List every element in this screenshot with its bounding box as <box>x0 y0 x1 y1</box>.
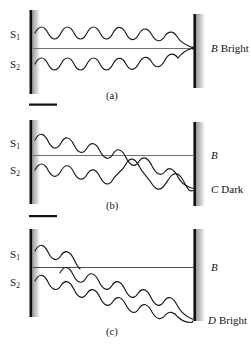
result-label-d: DBright <box>208 314 247 326</box>
result-kind-b: Bright <box>221 42 249 54</box>
result-label-c: CDark <box>211 183 243 195</box>
result-point-d: D <box>208 314 216 326</box>
source-label-s1-sub: 1 <box>16 33 20 42</box>
left-barrier-shadow <box>32 120 40 204</box>
right-screen-shadow <box>196 14 205 88</box>
result-kind-d: Bright <box>219 314 247 326</box>
right-screen <box>193 122 196 206</box>
panel-b: S1 S2 B CDark (b) <box>0 114 251 229</box>
result-label-b: BBright <box>211 42 249 54</box>
axis-point-b: B <box>211 149 218 161</box>
result-point-b: B <box>211 42 218 54</box>
interference-figure: S1 S2 BBright (a) <box>0 0 251 347</box>
source-label-s2-sub: 2 <box>16 169 20 178</box>
source-label-s2-sub: 2 <box>16 281 20 290</box>
left-barrier-shadow <box>32 10 40 94</box>
source-label-s1: S1 <box>10 28 20 42</box>
source-label-s2: S2 <box>10 276 20 290</box>
result-point-c: C <box>211 183 218 195</box>
source-label-s1-sub: 1 <box>16 253 20 262</box>
source-label-s1-sub: 1 <box>16 142 20 151</box>
panel-b-stage <box>0 114 251 229</box>
wave-train-upper <box>60 268 193 320</box>
left-barrier <box>30 10 33 94</box>
wave-s1 <box>35 134 193 188</box>
panel-c-caption: (c) <box>106 326 118 337</box>
source-label-s2-sub: 2 <box>16 63 20 72</box>
wave-s1 <box>35 245 80 269</box>
source-label-s1: S1 <box>10 137 20 151</box>
panel-c-drawing <box>0 229 251 347</box>
wave-s2 <box>35 48 193 70</box>
panel-separator-bar <box>29 104 57 106</box>
panel-c-stage <box>0 229 251 347</box>
right-screen <box>193 229 196 321</box>
source-label-s2: S2 <box>10 164 20 178</box>
axis-label-b: B <box>211 149 221 161</box>
panel-a-drawing <box>0 0 251 114</box>
wave-s2 <box>35 159 193 191</box>
arrival-point-b <box>191 46 194 49</box>
source-label-s1: S1 <box>10 248 20 262</box>
panel-separator-bar <box>29 215 57 217</box>
right-screen-shadow <box>196 122 205 206</box>
panel-a-caption: (a) <box>106 90 118 101</box>
source-label-s2: S2 <box>10 58 20 72</box>
left-barrier <box>30 120 33 204</box>
panel-b-drawing <box>0 114 251 229</box>
result-kind-c: Dark <box>221 183 243 195</box>
left-barrier-shadow <box>32 229 40 317</box>
panel-b-caption: (b) <box>106 200 118 211</box>
wave-s1 <box>35 27 193 48</box>
panel-c: S1 S2 B DBright (c) <box>0 229 251 347</box>
right-screen-shadow <box>196 229 205 321</box>
panel-a: S1 S2 BBright (a) <box>0 0 251 114</box>
right-screen <box>193 14 196 88</box>
left-barrier <box>30 229 33 317</box>
axis-point-b: B <box>211 261 218 273</box>
axis-label-b: B <box>211 261 221 273</box>
panel-a-stage <box>0 0 251 114</box>
